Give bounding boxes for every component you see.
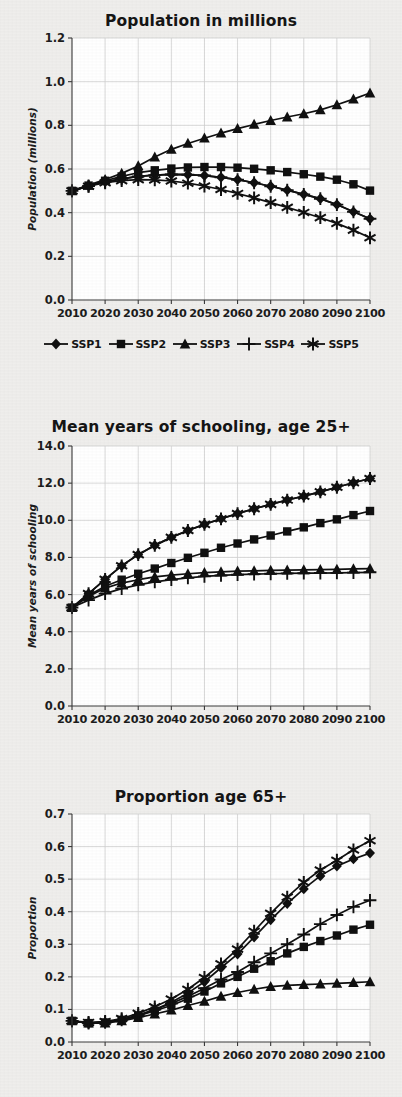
x-tick-label: 2070: [256, 307, 287, 320]
y-tick-label: 0.6: [45, 840, 65, 854]
y-tick-label: 0.1: [45, 1002, 65, 1016]
square-marker: [300, 943, 308, 951]
y-axis-ticks: 0.00.10.20.30.40.50.60.7: [45, 807, 72, 1049]
square-marker: [349, 925, 357, 933]
legend-item-ssp4[interactable]: SSP4: [236, 336, 294, 352]
square-marker: [349, 180, 357, 188]
x-tick-label: 2030: [123, 307, 154, 320]
y-tick-label: 4.0: [45, 625, 65, 639]
y-tick-label: 0.2: [45, 249, 65, 263]
legend-marker-asterisk-marker: [300, 336, 326, 352]
x-tick-label: 2050: [189, 1049, 220, 1062]
square-marker: [167, 559, 175, 567]
legend-label: SSP1: [71, 338, 101, 351]
legend-marker-triangle-marker: [172, 336, 198, 352]
square-marker: [283, 168, 291, 176]
x-tick-label: 2090: [322, 713, 353, 726]
y-tick-label: 2.0: [45, 662, 65, 676]
legend-label: SSP2: [136, 338, 166, 351]
y-axis-title: Population (millions): [26, 107, 38, 230]
plot-area-schooling: 0.02.04.06.08.010.012.014.02010202020302…: [0, 436, 402, 736]
square-marker: [316, 519, 324, 527]
square-marker: [349, 511, 357, 519]
plot-area-population: 0.00.20.40.60.81.01.22010202020302040205…: [0, 30, 402, 330]
square-marker: [333, 931, 341, 939]
x-tick-label: 2020: [90, 713, 121, 726]
legend-item-ssp3[interactable]: SSP3: [172, 336, 230, 352]
chart-panel-population: Population in millions 0.00.20.40.60.81.…: [0, 0, 402, 398]
square-marker: [217, 544, 225, 552]
square-marker: [283, 527, 291, 535]
x-tick-label: 2020: [90, 1049, 121, 1062]
x-tick-label: 2030: [123, 713, 154, 726]
x-tick-label: 2010: [57, 307, 88, 320]
x-axis-ticks: 2010202020302040205020602070208020902100: [57, 706, 386, 726]
legend-label: SSP3: [200, 338, 230, 351]
y-axis-ticks: 0.02.04.06.08.010.012.014.0: [37, 439, 72, 713]
chart-svg-population: 0.00.20.40.60.81.01.22010202020302040205…: [0, 30, 402, 330]
x-tick-label: 2070: [256, 1049, 287, 1062]
square-marker: [316, 172, 324, 180]
square-marker: [184, 554, 192, 562]
y-tick-label: 0.0: [45, 293, 65, 307]
x-tick-label: 2080: [289, 307, 320, 320]
legend-marker-square-marker: [108, 336, 134, 352]
x-tick-label: 2020: [90, 307, 121, 320]
plot-background: [72, 814, 370, 1042]
x-tick-label: 2090: [322, 307, 353, 320]
x-tick-label: 2040: [156, 713, 187, 726]
square-marker: [300, 523, 308, 531]
x-axis-ticks: 2010202020302040205020602070208020902100: [57, 300, 386, 320]
x-tick-label: 2030: [123, 1049, 154, 1062]
x-tick-label: 2060: [222, 307, 253, 320]
legend-item-ssp5[interactable]: SSP5: [300, 336, 358, 352]
x-tick-label: 2060: [222, 713, 253, 726]
y-axis-ticks: 0.00.20.40.60.81.01.2: [45, 31, 72, 307]
square-marker: [366, 507, 374, 515]
square-marker: [366, 921, 374, 929]
square-marker: [266, 531, 274, 539]
y-axis-title: Proportion: [26, 897, 38, 960]
chart-title-schooling: Mean years of schooling, age 25+: [0, 398, 402, 436]
y-tick-label: 0.7: [45, 807, 65, 821]
x-tick-label: 2080: [289, 1049, 320, 1062]
x-tick-label: 2100: [355, 713, 386, 726]
square-marker: [333, 175, 341, 183]
y-tick-label: 8.0: [45, 550, 65, 564]
x-tick-label: 2090: [322, 1049, 353, 1062]
x-tick-label: 2010: [57, 1049, 88, 1062]
y-tick-label: 0.2: [45, 970, 65, 984]
chart-svg-proportion: 0.00.10.20.30.40.50.60.72010202020302040…: [0, 806, 402, 1066]
square-marker: [233, 539, 241, 547]
y-tick-label: 0.3: [45, 937, 65, 951]
y-tick-label: 0.8: [45, 118, 65, 132]
y-tick-label: 0.4: [45, 905, 65, 919]
x-axis-ticks: 2010202020302040205020602070208020902100: [57, 1042, 386, 1062]
square-marker: [217, 163, 225, 171]
legend-marker-plus-marker: [236, 336, 262, 352]
square-marker: [316, 937, 324, 945]
chart-svg-schooling: 0.02.04.06.08.010.012.014.02010202020302…: [0, 436, 402, 736]
x-tick-label: 2080: [289, 713, 320, 726]
legend-label: SSP5: [328, 338, 358, 351]
x-tick-label: 2050: [189, 307, 220, 320]
square-marker: [250, 165, 258, 173]
x-tick-label: 2040: [156, 1049, 187, 1062]
y-tick-label: 0.0: [45, 699, 65, 713]
legend-item-ssp2[interactable]: SSP2: [108, 336, 166, 352]
x-tick-label: 2040: [156, 307, 187, 320]
chart-title-population: Population in millions: [0, 0, 402, 30]
y-axis-title: Mean years of schooling: [26, 504, 38, 648]
y-tick-label: 6.0: [45, 588, 65, 602]
y-tick-label: 10.0: [37, 513, 65, 527]
chart-title-proportion: Proportion age 65+: [0, 750, 402, 806]
legend-item-ssp1[interactable]: SSP1: [43, 336, 101, 352]
chart-legend: SSP1SSP2SSP3SSP4SSP5: [0, 336, 402, 352]
y-tick-label: 1.2: [45, 31, 65, 45]
legend-marker-diamond-marker: [43, 336, 69, 352]
square-marker: [233, 163, 241, 171]
square-marker: [250, 535, 258, 543]
y-tick-label: 0.6: [45, 162, 65, 176]
square-marker: [116, 340, 124, 348]
y-tick-label: 1.0: [45, 75, 65, 89]
